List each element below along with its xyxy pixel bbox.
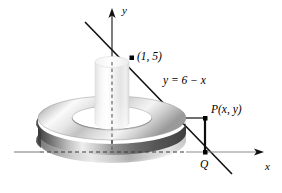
point-marker-P [203, 116, 208, 121]
label-point-P: P(x, y) [210, 103, 242, 116]
y-axis-label: y [121, 4, 127, 16]
point-marker-Q [203, 150, 208, 155]
point-marker-1-5 [130, 56, 135, 61]
shell-element-segment-PQ [186, 118, 205, 152]
x-axis-label: x [264, 160, 270, 172]
inner-cylinder [95, 57, 129, 130]
label-line-equation: y = 6 − x [162, 74, 207, 87]
figure-container: y x (1, 5) y = 6 − x P(x, y) Q [0, 0, 282, 193]
cylindrical-shell-diagram: y x (1, 5) y = 6 − x P(x, y) Q [0, 0, 282, 193]
label-point-Q: Q [200, 158, 209, 170]
label-point-1-5: (1, 5) [137, 50, 162, 63]
